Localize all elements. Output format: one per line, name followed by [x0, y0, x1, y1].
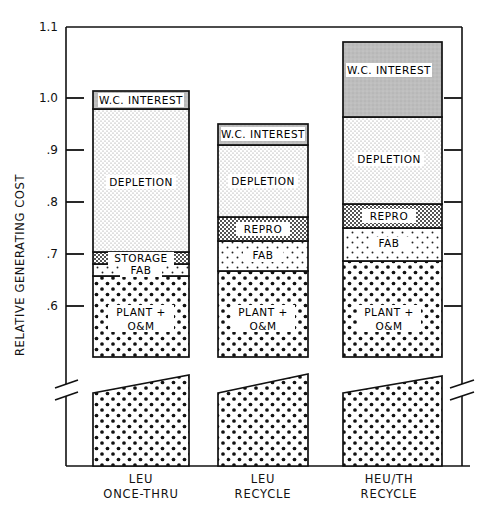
segment-label-depletion-bar3: DEPLETION [357, 153, 421, 165]
segment-label-plant-om-bar2-line2: O&M [249, 320, 276, 332]
x-axis-category-labels: LEU ONCE-THRU LEU RECYCLE HEU/TH RECYCLE [103, 472, 417, 501]
ytick-label-0: 1.1 [39, 20, 58, 34]
segment-label-fab-bar3: FAB [379, 237, 400, 249]
segment-label-storage-bar1: STORAGE [114, 252, 167, 264]
bar-group-leu-once-thru[interactable]: W.C. INTEREST DEPLETION STORAGE FAB PLAN… [93, 91, 189, 466]
ytick-label-2: .9 [47, 143, 58, 157]
segment-label-plant-om-bar3-line2: O&M [375, 320, 402, 332]
ytick-label-3: .8 [47, 195, 58, 209]
category-label-2-line2: RECYCLE [235, 487, 292, 501]
category-label-1-line2: ONCE-THRU [103, 487, 178, 501]
chart-svg: 1.1 1.0 .9 .8 .7 .6 RELATIVE GENERATING … [0, 0, 495, 507]
bar-group-leu-recycle[interactable]: W.C. INTEREST DEPLETION REPRO FAB PLANT … [218, 124, 308, 466]
segment-label-depletion-bar2: DEPLETION [231, 175, 295, 187]
segment-label-repro-bar3: REPRO [370, 210, 408, 222]
ytick-label-4: .7 [47, 247, 58, 261]
segment-label-fab-bar1: FAB [131, 264, 152, 276]
ytick-label-1: 1.0 [39, 91, 58, 105]
relative-generating-cost-chart: 1.1 1.0 .9 .8 .7 .6 RELATIVE GENERATING … [0, 0, 495, 507]
segment-label-plant-om-bar1-line1: PLANT + [116, 306, 166, 318]
segment-wc-interest-bar3[interactable] [343, 42, 442, 117]
segment-label-wc-interest-bar1: W.C. INTEREST [99, 94, 183, 106]
bar-base-leu-recycle[interactable] [218, 374, 308, 466]
segment-label-wc-interest-bar2: W.C. INTEREST [221, 128, 305, 140]
bar-group-heu-th-recycle[interactable]: W.C. INTEREST DEPLETION REPRO FAB PLANT … [343, 42, 442, 466]
y-axis-right [444, 27, 474, 466]
segment-label-plant-om-bar3-line1: PLANT + [364, 306, 414, 318]
bar-base-leu-once-thru[interactable] [93, 375, 189, 466]
category-label-3-line1: HEU/TH [365, 472, 414, 486]
segment-label-wc-interest-bar3: W.C. INTEREST [347, 64, 431, 76]
category-label-1-line1: LEU [129, 472, 154, 486]
ytick-label-5: .6 [47, 299, 58, 313]
segment-label-plant-om-bar1-line2: O&M [127, 320, 154, 332]
y-axis-title: RELATIVE GENERATING COST [13, 174, 27, 356]
category-label-2-line1: LEU [251, 472, 276, 486]
category-label-3-line2: RECYCLE [361, 487, 418, 501]
segment-label-depletion-bar1: DEPLETION [109, 176, 173, 188]
segment-label-plant-om-bar2-line1: PLANT + [238, 306, 288, 318]
segment-label-repro-bar2: REPRO [244, 223, 282, 235]
bar-base-heu-th-recycle[interactable] [343, 376, 442, 466]
segment-label-fab-bar2: FAB [253, 249, 274, 261]
